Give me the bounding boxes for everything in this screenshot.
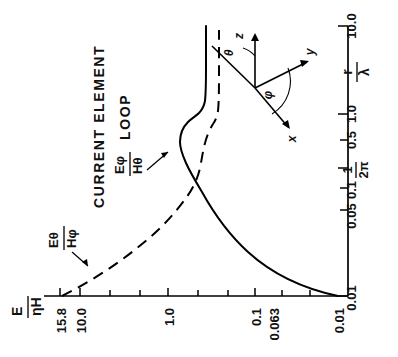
wave-impedance-plot: 15.8 10.0 1.0 0.1 0.063 0.01 10.0 1.0 0.…: [0, 0, 398, 357]
x-tick-one-over-two-pi: 1 2π: [340, 161, 371, 178]
loop-annotation: LOOP Eφ Hθ: [112, 94, 168, 176]
curve-loop-solid: [180, 26, 338, 296]
y-axis-title: E ηH: [9, 296, 44, 318]
x-axis-title-denominator: λ: [356, 68, 372, 76]
loop-ratio-denominator: Hθ: [130, 158, 145, 174]
element-ratio-numerator: Eθ: [46, 232, 61, 248]
x-tick-1.0: 1.0: [344, 105, 359, 123]
y-tick-0.01: 0.01: [332, 308, 347, 333]
y-tick-1.0: 1.0: [162, 308, 177, 326]
figure-canvas: 15.8 10.0 1.0 0.1 0.063 0.01 10.0 1.0 0.…: [0, 0, 398, 357]
current-element-heading: CURRENT ELEMENT: [91, 45, 107, 208]
y-tick-15.8: 15.8: [54, 308, 69, 333]
element-leader-arrow: [82, 259, 88, 266]
inset-label-y: y: [303, 47, 317, 56]
x-tick-0.1: 0.1: [344, 181, 359, 199]
x-axis-title: r λ: [339, 62, 372, 82]
inset-y-axis: [255, 62, 307, 88]
x-axis-ticks: [338, 26, 348, 296]
inset-label-theta: θ: [222, 49, 236, 56]
loop-label: LOOP: [117, 94, 133, 140]
y-tick-0.1: 0.1: [249, 308, 264, 326]
x-tick-0.01: 0.01: [344, 285, 359, 310]
x-axis-title-numerator: r: [339, 69, 355, 75]
x-tick-0.05: 0.05: [344, 203, 359, 228]
x-tick-10.0: 10.0: [344, 13, 359, 38]
y-axis-ticks: [60, 288, 310, 296]
inset-label-z: z: [232, 33, 246, 40]
y-tick-0.063: 0.063: [267, 308, 282, 341]
x-tick-labels: 10.0 1.0 0.5 1 2π 0.1 0.05 0.01: [340, 13, 371, 310]
inset-theta-arc: [243, 48, 255, 56]
inset-y-arrowhead: [300, 60, 309, 67]
y-tick-10.0: 10.0: [74, 308, 89, 333]
inset-label-x: x: [285, 134, 299, 143]
x-tick-0.5: 0.5: [344, 131, 359, 149]
x-tick-2pi-numerator: 1: [340, 166, 355, 173]
coordinate-inset: z y x θ φ: [212, 33, 317, 143]
y-axis-title-numerator: E: [9, 307, 25, 316]
x-tick-2pi-denominator: 2π: [356, 161, 371, 178]
y-axis-title-denominator: ηH: [28, 297, 44, 316]
loop-ratio-numerator: Eφ: [112, 156, 127, 174]
inset-z-arrowhead: [251, 33, 259, 41]
element-ratio-denominator: Hφ: [64, 229, 79, 248]
current-element-annotation: Eθ Hφ: [46, 226, 88, 266]
y-tick-labels: 15.8 10.0 1.0 0.1 0.063 0.01: [54, 308, 347, 341]
inset-label-phi: φ: [261, 90, 275, 99]
